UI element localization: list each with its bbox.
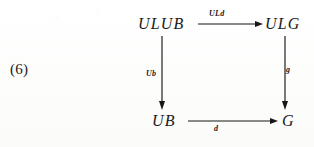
arrow-label-top: ULd <box>209 9 225 18</box>
diagram-node-top-left: ULUB <box>138 15 185 33</box>
figure-canvas: (6) ULUB ULG UB G ULd Ub g d <box>0 0 314 147</box>
arrow-label-bottom: d <box>214 124 218 133</box>
arrow-label-left: Ub <box>146 69 156 78</box>
equation-number: (6) <box>10 61 28 78</box>
arrow-label-right: g <box>286 65 290 74</box>
diagram-node-bottom-left: UB <box>152 112 176 130</box>
diagram-node-top-right: ULG <box>265 15 301 33</box>
diagram-node-bottom-right: G <box>282 112 295 130</box>
